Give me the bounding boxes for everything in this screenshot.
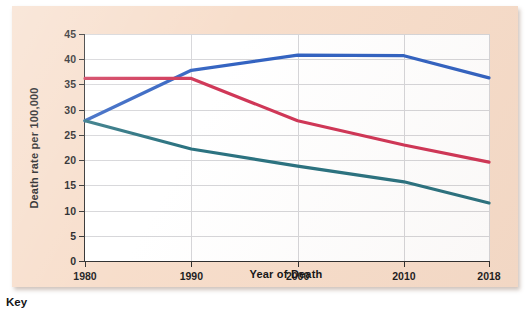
y-axis-title-text: Death rate per 100,000 — [28, 87, 40, 208]
x-tick-mark — [191, 261, 192, 267]
y-axis-title: Death rate per 100,000 — [26, 34, 42, 261]
y-tick-label: 5 — [70, 230, 76, 242]
plot-area: 051015202530354045 19801990200020102018 — [84, 34, 489, 262]
chart-figure-panel: Death rate per 100,000 05101520253035404… — [12, 6, 518, 287]
y-tick-label: 10 — [64, 205, 76, 217]
y-tick-label: 35 — [64, 78, 76, 90]
y-tick-label: 0 — [70, 255, 76, 267]
y-tick-label: 20 — [64, 154, 76, 166]
y-tick-label: 45 — [64, 28, 76, 40]
key-label: Key — [6, 296, 27, 308]
gridline-vertical — [489, 34, 490, 261]
y-tick-label: 40 — [64, 53, 76, 65]
series-line-teal-series — [85, 121, 489, 203]
x-tick-mark — [489, 261, 490, 267]
x-axis-title: Year of Death — [84, 268, 488, 280]
x-tick-mark — [298, 261, 299, 267]
x-tick-mark — [404, 261, 405, 267]
y-tick-label: 25 — [64, 129, 76, 141]
x-tick-mark — [85, 261, 86, 267]
series-lines — [85, 34, 489, 261]
y-tick-label: 30 — [64, 104, 76, 116]
y-tick-label: 15 — [64, 179, 76, 191]
series-line-blue-series — [85, 55, 489, 121]
